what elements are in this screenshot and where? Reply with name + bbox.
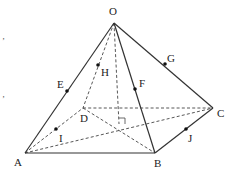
label-E: E <box>57 78 64 90</box>
point-J <box>184 127 188 131</box>
label-A: A <box>14 156 22 168</box>
label-G: G <box>167 52 175 64</box>
label-C: C <box>217 107 224 119</box>
vertex-labels: EFGHIJOABCD <box>14 5 224 169</box>
edge-points <box>54 62 188 131</box>
edge-DB <box>83 108 155 153</box>
margin-mark-0: ʼ <box>2 36 5 46</box>
pyramid-diagram: EFGHIJOABCD ʼʼ <box>0 0 236 174</box>
hidden-edges <box>25 23 213 153</box>
label-J: J <box>188 132 193 144</box>
point-I <box>54 127 58 131</box>
edge-OC <box>114 23 213 108</box>
point-E <box>65 89 69 93</box>
visible-edges <box>25 23 213 153</box>
label-I: I <box>59 132 63 144</box>
right-angle-mark <box>119 118 125 124</box>
margin-marks: ʼʼ <box>2 36 5 104</box>
margin-mark-1: ʼ <box>2 94 5 104</box>
label-H: H <box>101 66 109 78</box>
label-D: D <box>80 112 88 124</box>
point-F <box>133 87 137 91</box>
edge-AD <box>25 108 83 153</box>
label-O: O <box>109 5 117 17</box>
label-B: B <box>154 157 161 169</box>
edge-OA <box>25 23 114 153</box>
label-F: F <box>139 77 145 89</box>
right-angle-icon <box>119 118 125 124</box>
point-H <box>96 63 100 67</box>
